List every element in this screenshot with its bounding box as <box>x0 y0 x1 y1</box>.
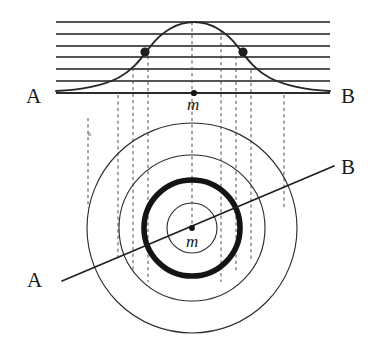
label-B-bottom: B <box>341 155 356 180</box>
mean-dot-bottom <box>189 225 195 231</box>
label-h-mark: h <box>88 131 91 137</box>
label-m-top: m <box>187 95 199 115</box>
inflection-dot-right <box>238 47 247 56</box>
statistics-figure: A B m A B m h <box>0 0 379 346</box>
inflection-dot-left <box>140 47 149 56</box>
label-A-bottom: A <box>27 268 43 293</box>
figure-canvas <box>0 0 379 346</box>
label-B-top: B <box>341 84 356 109</box>
label-A-top: A <box>26 84 42 109</box>
section-line-AB-bottom <box>62 166 334 281</box>
label-m-bottom: m <box>186 232 198 252</box>
horizontal-level-lines <box>56 22 330 81</box>
